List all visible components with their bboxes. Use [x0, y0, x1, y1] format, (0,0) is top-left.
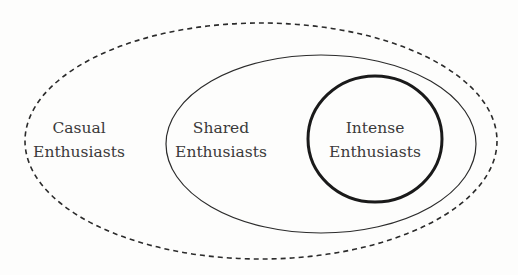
shared-label-line2: Enthusiasts [175, 143, 267, 161]
intense-enthusiasts-boundary [308, 76, 442, 202]
intense-label-line1: Intense [346, 119, 405, 137]
casual-label-line2: Enthusiasts [33, 143, 125, 161]
casual-label-line1: Casual [52, 119, 105, 137]
casual-enthusiasts-boundary [25, 23, 497, 259]
intense-label-line2: Enthusiasts [329, 143, 421, 161]
nested-enthusiast-diagram: Casual Enthusiasts Shared Enthusiasts In… [0, 0, 518, 275]
shared-label-line1: Shared [193, 119, 249, 137]
